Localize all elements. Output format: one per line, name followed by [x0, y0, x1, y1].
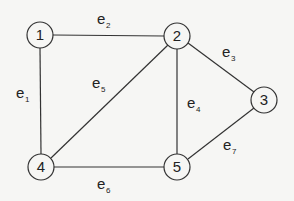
edge-e5 [51, 45, 168, 158]
edge-label-e6: e 6 [97, 175, 111, 195]
svg-text:5: 5 [101, 85, 106, 94]
edge-label-e4: e 4 [187, 94, 201, 114]
svg-text:2: 2 [106, 21, 111, 30]
svg-text:e: e [92, 74, 100, 91]
svg-text:7: 7 [232, 147, 237, 156]
node-label-5: 5 [173, 158, 181, 175]
edge-e3 [188, 43, 254, 92]
svg-text:e: e [222, 43, 230, 60]
svg-text:6: 6 [106, 186, 111, 195]
node-label-1: 1 [36, 26, 44, 43]
svg-text:e: e [16, 84, 24, 101]
svg-text:3: 3 [231, 54, 236, 63]
svg-text:1: 1 [25, 95, 30, 104]
svg-text:e: e [187, 94, 195, 111]
edge-label-e1: e 1 [16, 84, 30, 104]
svg-text:e: e [223, 136, 231, 153]
edge-e7 [188, 108, 254, 159]
edge-e1 [40, 48, 41, 154]
svg-text:e: e [97, 175, 105, 192]
edge-label-e7: e 7 [223, 136, 237, 156]
edge-label-e3: e 3 [222, 43, 236, 63]
svg-text:4: 4 [196, 105, 201, 114]
graph-svg: 1 2 3 4 5 e 1 e 2 e 3 e 4 e 5 e 6 e [0, 0, 294, 201]
node-label-2: 2 [173, 27, 181, 44]
svg-text:e: e [97, 10, 105, 27]
node-label-4: 4 [37, 158, 45, 175]
node-label-3: 3 [260, 91, 268, 108]
edge-label-e5: e 5 [92, 74, 106, 94]
edge-label-e2: e 2 [97, 10, 111, 30]
edge-e2 [53, 35, 164, 36]
graph-diagram: 1 2 3 4 5 e 1 e 2 e 3 e 4 e 5 e 6 e [0, 0, 294, 201]
